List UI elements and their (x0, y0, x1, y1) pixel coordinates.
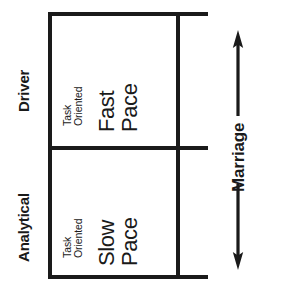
row-label-driver: Driver (16, 70, 32, 112)
right-border-line (176, 12, 180, 279)
driver-cell-maintext: Fast Pace (96, 83, 142, 132)
analytical-sub-line-2: Oriented (73, 219, 84, 258)
middle-divider-line (48, 146, 208, 150)
driver-cell-subtext: Task Oriented (62, 87, 84, 126)
driver-sub-line-2: Oriented (73, 87, 84, 126)
driver-main-line-1: Fast (96, 83, 119, 132)
analytical-cell-maintext: Slow Pace (96, 217, 142, 266)
bottom-border-line (48, 275, 208, 279)
analytical-cell-subtext: Task Oriented (62, 219, 84, 258)
analytical-main-line-2: Pace (119, 217, 142, 266)
left-border-line (48, 12, 52, 279)
diagram-canvas: Driver Analytical Task Oriented Fast Pac… (0, 0, 293, 288)
analytical-main-line-1: Slow (96, 217, 119, 266)
top-border-line (48, 12, 208, 16)
row-label-analytical: Analytical (16, 193, 32, 262)
marriage-axis-label: Marriage (230, 123, 248, 192)
driver-main-line-2: Pace (119, 83, 142, 132)
